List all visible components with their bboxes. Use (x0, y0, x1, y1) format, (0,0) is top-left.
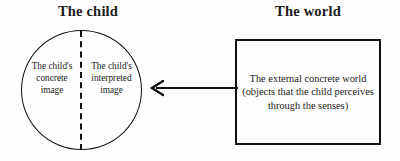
world-heading: The world (228, 3, 388, 20)
concrete-image-label: The child's concrete image (26, 60, 78, 96)
child-circle-dashed-divider (80, 31, 82, 150)
child-heading: The child (0, 3, 176, 20)
world-box-label: The external concrete world (objects tha… (242, 72, 374, 113)
child-world-diagram: The child The world The child's concrete… (0, 0, 400, 161)
left-arrow-icon (146, 78, 238, 98)
interpreted-image-label: The child's interpreted image (83, 60, 140, 96)
world-box-shape: The external concrete world (objects tha… (235, 39, 381, 145)
